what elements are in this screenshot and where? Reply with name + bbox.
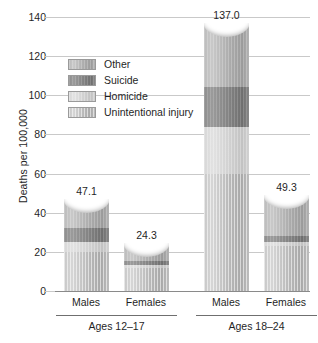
bar-segment[interactable] xyxy=(264,246,309,291)
legend-item-label: Other xyxy=(104,58,130,70)
stacked-bar-chart: Deaths per 100,000 020406080100120140 47… xyxy=(0,0,317,343)
bar-segment[interactable] xyxy=(124,261,169,265)
y-axis-tick-mark xyxy=(45,134,55,135)
bar-segment[interactable] xyxy=(64,242,109,252)
bar-top-dish xyxy=(264,195,309,209)
x-axis-category-label: Males xyxy=(195,296,257,308)
bar-segment[interactable] xyxy=(64,228,109,242)
y-axis-tick-mark xyxy=(45,56,55,57)
legend-item[interactable]: Homicide xyxy=(68,88,193,104)
y-axis-tick-label: 80 xyxy=(0,128,46,140)
x-axis-group-label: Ages 18–24 xyxy=(196,320,317,332)
bar-segment[interactable] xyxy=(204,174,249,291)
legend-item[interactable]: Unintentional injury xyxy=(68,104,193,120)
legend-item[interactable]: Suicide xyxy=(68,72,193,88)
y-axis-tick-label: 100 xyxy=(0,89,46,101)
y-axis-tick-mark xyxy=(45,213,55,214)
y-axis-tick-label: 60 xyxy=(0,168,46,180)
bar-top-dish xyxy=(204,23,249,37)
x-axis-category-label: Females xyxy=(115,296,177,308)
legend-swatch xyxy=(68,59,96,70)
legend-item-label: Homicide xyxy=(104,90,148,102)
bar-top-dish xyxy=(124,243,169,257)
bar-segment[interactable] xyxy=(124,268,169,291)
y-axis-tick-label: 20 xyxy=(0,246,46,258)
legend-item-label: Suicide xyxy=(104,74,138,86)
bar-column[interactable]: 137.0 xyxy=(204,23,249,291)
legend-swatch xyxy=(68,91,96,102)
x-axis-category-label: Females xyxy=(255,296,317,308)
bar-column[interactable]: 49.3 xyxy=(264,195,309,291)
group-rule xyxy=(196,315,317,316)
y-axis-tick-mark xyxy=(45,252,55,253)
bar-segment[interactable] xyxy=(124,265,169,268)
bar-segment[interactable] xyxy=(204,23,249,88)
legend-swatch xyxy=(68,107,96,118)
bar-segment[interactable] xyxy=(64,199,109,229)
bar-segment[interactable] xyxy=(204,87,249,126)
bar-column[interactable]: 47.1 xyxy=(64,199,109,291)
bar-segment[interactable] xyxy=(124,243,169,260)
y-axis-tick-mark xyxy=(45,174,55,175)
bar-segment[interactable] xyxy=(264,242,309,246)
group-rule xyxy=(56,315,177,316)
y-axis-tick-label: 40 xyxy=(0,207,46,219)
y-axis-tick-label: 0 xyxy=(0,285,46,297)
bar-segment[interactable] xyxy=(264,195,309,237)
legend-swatch xyxy=(68,75,96,86)
x-axis-line xyxy=(55,291,310,292)
bar-segment[interactable] xyxy=(204,127,249,174)
bar-column[interactable]: 24.3 xyxy=(124,243,169,291)
gridline xyxy=(55,174,310,175)
legend-item[interactable]: Other xyxy=(68,56,193,72)
bar-value-label: 47.1 xyxy=(52,185,122,197)
bar-segment[interactable] xyxy=(64,252,109,291)
bar-top-dish xyxy=(64,199,109,213)
legend: OtherSuicideHomicideUnintentional injury xyxy=(68,56,193,120)
legend-item-label: Unintentional injury xyxy=(104,106,193,118)
y-axis-tick-label: 120 xyxy=(0,50,46,62)
bar-value-label: 49.3 xyxy=(252,181,318,193)
bar-value-label: 137.0 xyxy=(192,9,262,21)
gridline xyxy=(55,134,310,135)
y-axis-tick-mark xyxy=(45,17,55,18)
y-axis-tick-mark xyxy=(45,291,55,292)
y-axis-tick-label: 140 xyxy=(0,11,46,23)
gridline xyxy=(55,17,310,18)
bar-value-label: 24.3 xyxy=(112,229,182,241)
x-axis-category-label: Males xyxy=(55,296,117,308)
y-axis-tick-mark xyxy=(45,95,55,96)
bar-segment[interactable] xyxy=(264,236,309,242)
x-axis-group-label: Ages 12–17 xyxy=(56,320,177,332)
